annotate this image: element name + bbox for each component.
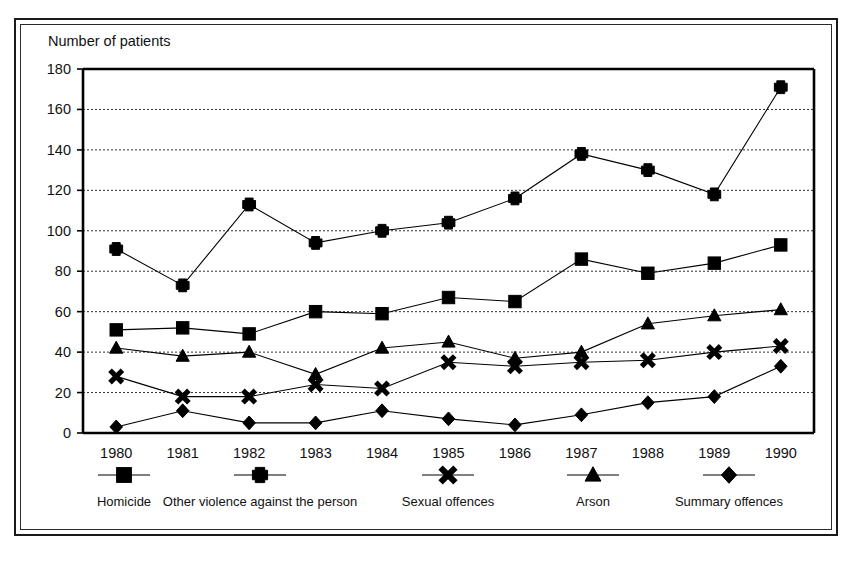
data-point-1980: [110, 370, 122, 382]
data-point-1987: [575, 253, 587, 265]
data-point-1990: [774, 359, 787, 373]
data-point-1982: [243, 328, 255, 340]
x-tick-label-1987: 1987: [565, 445, 597, 461]
y-axis-title: Number of patients: [48, 33, 171, 49]
legend-marker-diamond-icon: [721, 467, 736, 484]
data-point-1985: [442, 216, 455, 229]
x-tick-label-1989: 1989: [698, 445, 730, 461]
x-tick-label-1981: 1981: [167, 445, 199, 461]
legend-item-arson[interactable]: Arson: [567, 467, 619, 509]
data-point-1989: [708, 390, 721, 404]
data-point-1983: [309, 237, 322, 250]
data-point-1988: [641, 164, 654, 177]
series-homicide: [110, 239, 787, 340]
x-tick-labels-group: 1980198119821983198419851986198719881989…: [100, 445, 797, 461]
data-point-1984: [376, 307, 388, 319]
y-tick-label-40: 40: [55, 344, 71, 360]
legend-item-summary-offences[interactable]: Summary offences: [675, 467, 784, 509]
data-point-1990: [774, 303, 787, 315]
line-chart: 020406080100120140160180 198019811982198…: [16, 20, 840, 538]
y-tick-label-120: 120: [47, 182, 71, 198]
data-point-1989: [708, 188, 721, 201]
legend-label: Arson: [576, 494, 610, 509]
series-line: [116, 87, 781, 285]
y-tick-label-100: 100: [47, 223, 71, 239]
data-point-1989: [708, 257, 720, 269]
x-tick-label-1983: 1983: [299, 445, 331, 461]
legend-label: Summary offences: [675, 494, 784, 509]
series-sexual-offences: [110, 340, 787, 403]
data-point-1982: [243, 345, 256, 357]
data-point-1983: [309, 416, 322, 430]
y-tick-label-160: 160: [47, 101, 71, 117]
legend-label: Homicide: [97, 494, 151, 509]
y-tick-label-20: 20: [55, 385, 71, 401]
x-tick-label-1985: 1985: [432, 445, 464, 461]
y-tick-label-140: 140: [47, 142, 71, 158]
data-point-1988: [642, 396, 655, 410]
data-point-1980: [110, 324, 122, 336]
data-point-1987: [575, 345, 588, 357]
figure-frame: 020406080100120140160180 198019811982198…: [14, 18, 838, 536]
data-point-1981: [176, 404, 189, 418]
series-line: [116, 245, 781, 334]
data-point-1987: [575, 408, 588, 422]
series-other-violence-against-the-person: [110, 81, 787, 292]
x-tick-label-1986: 1986: [499, 445, 531, 461]
data-point-1988: [642, 267, 654, 279]
data-point-1983: [309, 367, 322, 379]
legend-group: HomicideOther violence against the perso…: [97, 467, 784, 509]
legend-item-sexual-offences[interactable]: Sexual offences: [402, 468, 495, 509]
data-point-1985: [442, 291, 454, 303]
data-point-1980: [110, 341, 123, 353]
x-tick-label-1990: 1990: [765, 445, 797, 461]
y-tick-label-80: 80: [55, 263, 71, 279]
series-group: [110, 81, 788, 434]
chart-canvas: 020406080100120140160180 198019811982198…: [16, 20, 840, 538]
data-point-1984: [376, 224, 389, 237]
data-point-1986: [509, 295, 521, 307]
legend-item-other-violence-against-the-person[interactable]: Other violence against the person: [163, 467, 357, 509]
data-point-1986: [509, 192, 522, 205]
data-point-1982: [243, 198, 256, 211]
y-tick-label-180: 180: [47, 61, 71, 77]
legend-marker-triangle-icon: [585, 467, 601, 481]
x-tick-label-1980: 1980: [100, 445, 132, 461]
data-point-1984: [376, 404, 389, 418]
data-point-1980: [110, 243, 123, 256]
y-tick-label-0: 0: [63, 425, 71, 441]
x-tick-label-1984: 1984: [366, 445, 398, 461]
data-point-1983: [309, 305, 321, 317]
legend-marker-plus-icon: [252, 467, 267, 482]
x-tick-label-1988: 1988: [632, 445, 664, 461]
data-point-1985: [442, 412, 455, 426]
legend-label: Other violence against the person: [163, 494, 357, 509]
series-arson: [110, 303, 788, 380]
data-point-1986: [509, 418, 522, 432]
y-tick-label-60: 60: [55, 304, 71, 320]
axes-group: [77, 69, 814, 433]
data-point-1981: [176, 279, 189, 292]
legend-label: Sexual offences: [402, 494, 495, 509]
data-point-1990: [774, 81, 787, 94]
data-point-1982: [243, 416, 256, 430]
x-tick-label-1982: 1982: [233, 445, 265, 461]
data-point-1990: [775, 239, 787, 251]
data-point-1985: [442, 335, 455, 347]
data-point-1981: [176, 322, 188, 334]
legend-marker-square-icon: [117, 468, 132, 483]
legend-item-homicide[interactable]: Homicide: [97, 468, 151, 509]
y-tick-labels-group: 020406080100120140160180: [47, 61, 71, 441]
